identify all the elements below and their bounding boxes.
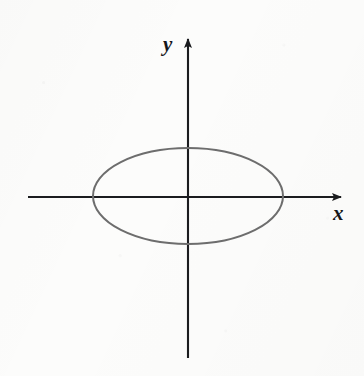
- y-axis-label: y: [163, 34, 172, 55]
- figure-canvas: y x: [0, 0, 364, 376]
- x-axis-label: x: [333, 203, 344, 224]
- coordinate-plot: [0, 0, 364, 376]
